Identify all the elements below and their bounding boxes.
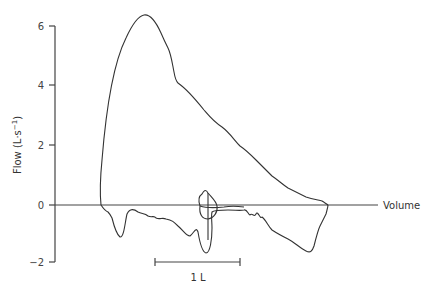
tick-label-2: 2 — [38, 140, 44, 151]
tick-label-6: 6 — [38, 21, 44, 32]
y-ticks — [49, 26, 55, 262]
tick-label-neg2: −2 — [29, 257, 44, 268]
loop-tail — [200, 206, 244, 208]
scale-bar — [155, 258, 240, 266]
flow-volume-chart: 6 4 2 0 −2 Flow (L·s−1) Volume 1 L — [0, 0, 426, 293]
tick-label-0: 0 — [38, 200, 44, 211]
scale-bar-label: 1 L — [190, 272, 206, 283]
tick-label-4: 4 — [38, 80, 44, 91]
y-axis-title: Flow (L·s−1) — [11, 116, 23, 174]
inspiratory-curve — [101, 205, 328, 253]
x-axis-title: Volume — [383, 200, 420, 211]
expiratory-curve — [100, 15, 328, 205]
